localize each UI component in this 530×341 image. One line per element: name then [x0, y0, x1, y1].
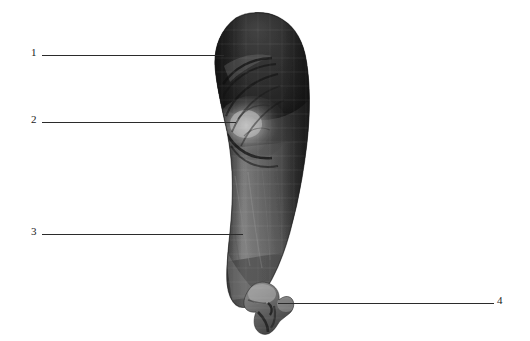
callout-2-number: 2 — [31, 114, 37, 125]
callout-4-number: 4 — [497, 295, 503, 306]
callout-1-number: 1 — [31, 47, 37, 58]
callout-3-leader-line — [42, 234, 243, 235]
specimen-render — [0, 0, 530, 341]
figure-canvas: 1 2 3 4 — [0, 0, 530, 341]
callout-1-leader-line — [42, 55, 224, 56]
callout-3-number: 3 — [31, 226, 37, 237]
callout-4-leader-line — [278, 303, 494, 304]
callout-2-leader-line — [42, 122, 236, 123]
